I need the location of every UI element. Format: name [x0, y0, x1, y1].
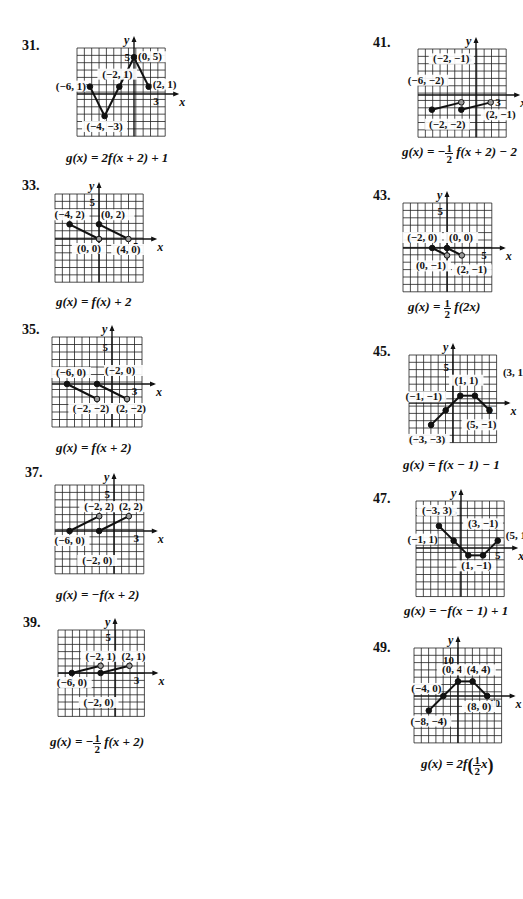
equation-43: g(x) = 12 f(2x) — [408, 298, 480, 319]
point-label: (−4, 0) — [411, 682, 441, 695]
point-label: (0, 5) — [138, 50, 162, 63]
equation-37: g(x) = −f(x + 2) — [56, 587, 139, 603]
open-point — [459, 253, 465, 259]
point-label: (−2, 1) — [86, 650, 116, 663]
x-axis-label: x — [156, 240, 163, 254]
y-axis-arrow-icon — [110, 325, 115, 331]
y-axis-label: y — [102, 470, 110, 484]
x-tick-label: 5 — [495, 549, 501, 561]
closed-point — [146, 84, 152, 90]
closed-point — [472, 393, 478, 399]
y-axis-label: y — [446, 633, 454, 647]
x-axis-label: x — [178, 95, 185, 109]
graph-segment — [90, 87, 105, 116]
point-label: (−2, −2) — [429, 118, 466, 131]
equation-35: g(x) = f(x + 2) — [56, 440, 131, 456]
y-axis-label: y — [87, 179, 95, 193]
graph-segment — [72, 666, 101, 673]
point-label: (1, −1) — [461, 559, 491, 572]
point-label: (0, 0) — [449, 231, 473, 244]
x-axis-label: x — [519, 96, 523, 110]
point-label: (2, 1) — [121, 650, 145, 663]
graph-segment — [432, 102, 461, 109]
closed-point — [102, 113, 108, 119]
y-axis-arrow-icon — [132, 36, 137, 42]
closed-point — [96, 528, 102, 534]
closed-point — [459, 107, 465, 113]
closed-point — [436, 523, 442, 529]
x-tick-label: 3 — [495, 96, 501, 108]
y-axis-arrow-icon — [459, 489, 464, 495]
y-axis-arrow-icon — [445, 191, 450, 197]
point-label: (3, 1 — [503, 366, 523, 379]
y-tick-label: 5 — [90, 196, 96, 208]
closed-point — [466, 553, 472, 559]
point-label: (5, 1 — [506, 529, 523, 542]
y-axis-arrow-icon — [112, 473, 117, 479]
open-point — [126, 513, 132, 519]
closed-point — [443, 408, 449, 414]
point-label: (1, 1) — [454, 374, 478, 387]
x-tick-label: 3 — [133, 532, 139, 544]
open-point — [96, 513, 102, 519]
point-label: (2, −1) — [457, 263, 487, 276]
point-label: (2, −2) — [116, 402, 146, 415]
y-axis-label: y — [441, 340, 449, 354]
closed-point — [451, 538, 457, 544]
x-axis-label: x — [155, 385, 162, 399]
closed-point — [87, 84, 93, 90]
equation-39: g(x) = −12 f(x + 2) — [50, 733, 144, 754]
fraction-one-half: 12 — [445, 143, 453, 164]
open-point — [96, 236, 102, 242]
open-point — [488, 100, 494, 106]
open-point — [444, 253, 450, 259]
point-label: (3, −1) — [468, 517, 498, 530]
point-label: (2, −1) — [486, 108, 516, 121]
y-tick-label: 5 — [444, 361, 450, 373]
point-label: (−6, 0) — [57, 676, 87, 689]
x-axis-label: x — [517, 549, 523, 563]
equation-47: g(x) = −f(x − 1) + 1 — [404, 603, 508, 619]
x-axis-label: x — [157, 532, 164, 546]
y-tick-label: 5 — [106, 631, 112, 643]
point-label: (−2, 0) — [82, 554, 112, 567]
x-axis-label: x — [510, 404, 517, 418]
closed-point — [67, 528, 73, 534]
x-tick-label: 3 — [134, 674, 140, 686]
fraction-one-half: 12 — [473, 755, 481, 776]
y-tick-label: 5 — [105, 488, 111, 500]
closed-point — [429, 107, 435, 113]
point-label: (−2, −1) — [433, 52, 470, 65]
y-axis-label: y — [100, 322, 108, 336]
closed-point — [470, 679, 476, 685]
point-label: (4, 0) — [116, 243, 140, 256]
point-label: (−8, −4) — [411, 715, 448, 728]
y-axis-label: y — [103, 615, 111, 629]
x-tick-label: 3 — [153, 95, 159, 107]
equation-41: g(x) = −12 f(x + 2) − 2 — [402, 143, 517, 164]
open-point — [94, 396, 100, 402]
y-axis-arrow-icon — [456, 636, 461, 642]
open-point — [124, 396, 130, 402]
point-label: (0, 0) — [77, 242, 101, 255]
y-axis-arrow-icon — [474, 37, 479, 43]
y-axis-label: y — [449, 486, 457, 500]
point-label: (−2, 0) — [407, 231, 437, 244]
closed-point — [64, 381, 70, 387]
y-axis-label: y — [122, 33, 130, 47]
point-label: (2, 1) — [153, 78, 177, 91]
closed-point — [67, 222, 73, 228]
closed-point — [131, 54, 137, 60]
open-point — [459, 100, 465, 106]
y-tick-label: 5 — [103, 341, 109, 353]
point-label: (0, −1) — [416, 259, 446, 272]
point-label: (−6, 0) — [56, 366, 86, 379]
closed-point — [495, 538, 501, 544]
x-axis-label: x — [515, 697, 522, 711]
closed-point — [487, 408, 493, 414]
graph-33: xy55 — [55, 179, 163, 282]
point-label: (2, 2) — [119, 500, 143, 513]
x-axis-label: x — [157, 674, 164, 688]
point-label: (−2, 2) — [84, 500, 114, 513]
y-axis-arrow-icon — [451, 343, 456, 349]
